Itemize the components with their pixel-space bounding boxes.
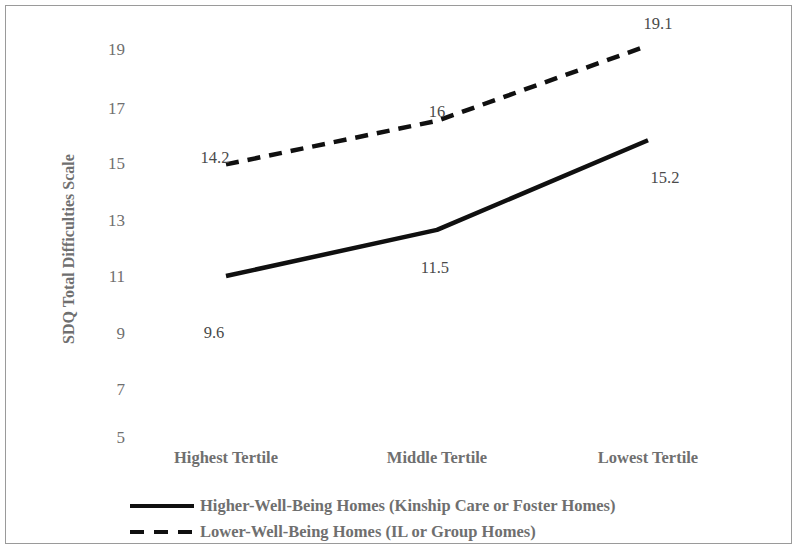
chart-figure: SDQ Total Difficulties Scale 19 17 15 13… bbox=[0, 0, 799, 550]
legend-solid-line-icon bbox=[128, 500, 196, 512]
series-line-higher-well-being bbox=[226, 140, 648, 276]
data-label-higher-lowest: 15.2 bbox=[620, 170, 710, 187]
data-label-lower-highest: 14.2 bbox=[170, 150, 260, 167]
plot-area: SDQ Total Difficulties Scale 19 17 15 13… bbox=[0, 0, 799, 550]
legend-item-higher-well-being: Higher-Well-Being Homes (Kinship Care or… bbox=[128, 494, 768, 518]
data-label-higher-middle: 11.5 bbox=[390, 260, 480, 277]
legend-item-lower-well-being: Lower-Well-Being Homes (IL or Group Home… bbox=[128, 520, 768, 544]
x-tick-label-middle-tertile: Middle Tertile bbox=[337, 450, 537, 467]
chart-legend: Higher-Well-Being Homes (Kinship Care or… bbox=[128, 494, 768, 546]
x-tick-label-lowest-tertile: Lowest Tertile bbox=[548, 450, 748, 467]
data-label-lower-middle: 16 bbox=[392, 104, 482, 121]
data-label-higher-highest: 9.6 bbox=[169, 325, 259, 342]
x-tick-label-highest-tertile: Highest Tertile bbox=[126, 450, 326, 467]
data-label-lower-lowest: 19.1 bbox=[613, 16, 703, 33]
legend-dashed-line-icon bbox=[128, 526, 196, 538]
legend-label-higher-well-being: Higher-Well-Being Homes (Kinship Care or… bbox=[200, 496, 616, 516]
legend-label-lower-well-being: Lower-Well-Being Homes (IL or Group Home… bbox=[200, 522, 536, 542]
